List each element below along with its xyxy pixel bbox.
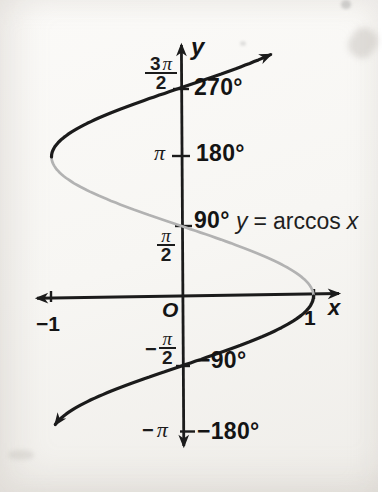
minus-sign: −	[145, 339, 157, 359]
y-tick-label-pi: π	[154, 142, 165, 164]
pi2-denominator: 2	[161, 247, 172, 263]
y-axis-label: y	[191, 35, 204, 59]
y-tick-label-270deg: 270°	[194, 76, 243, 99]
equation-argument: x	[347, 208, 359, 235]
pi2-pi-symbol: π	[161, 228, 171, 243]
origin-label: O	[162, 299, 178, 320]
neg-pi-pi-symbol: π	[157, 417, 168, 443]
curve-equation: y = arccos x	[236, 208, 358, 235]
y-axis	[181, 45, 183, 446]
equation-equals: =	[254, 208, 267, 235]
equation-function: arccos	[273, 208, 341, 235]
y-tick-label-neg90deg: −90°	[197, 349, 246, 372]
x-tick-label-neg1: −1	[36, 313, 60, 334]
equation-lhs: y	[236, 208, 248, 235]
minus-sign: −	[142, 420, 154, 440]
3pi2-coefficient: 3	[150, 56, 161, 71]
y-tick-label-neg-pi: − π	[142, 417, 168, 443]
y-tick-label-180deg: 180°	[196, 142, 245, 165]
3pi2-denominator: 2	[156, 75, 167, 91]
neg-pi2-fraction: π 2	[159, 331, 176, 366]
y-tick-label-neg-pi-over-2: − π 2	[145, 331, 176, 366]
y-tick-label-neg180deg: −180°	[197, 420, 260, 443]
3pi2-pi-symbol: π	[163, 56, 173, 71]
y-tick-label-pi-over-2: π 2	[157, 228, 175, 263]
neg-pi2-pi-symbol: π	[162, 331, 172, 346]
y-tick-label-90deg: 90°	[194, 209, 230, 232]
x-axis	[37, 294, 339, 299]
y-tick-label-3pi-over-2: 3π 2	[145, 56, 177, 91]
neg-pi2-denominator: 2	[162, 350, 173, 366]
x-axis-label: x	[328, 297, 340, 319]
x-tick-label-pos1: 1	[304, 307, 316, 328]
